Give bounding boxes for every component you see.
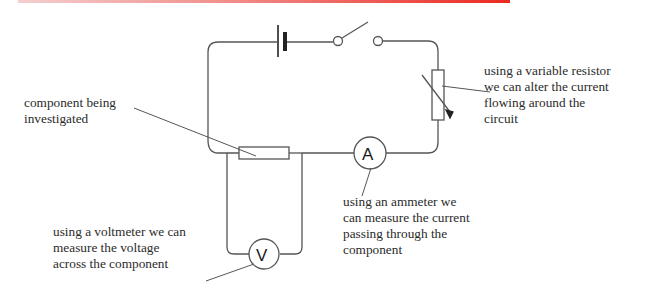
variable-resistor-body [432, 70, 444, 120]
wire-resistor-left [208, 140, 239, 153]
switch-lever [342, 22, 368, 38]
ammeter-symbol: A [362, 145, 374, 164]
variable-resistor-arrow [422, 75, 450, 112]
label-component: component being investigated [24, 95, 116, 127]
wire-right-lower [386, 120, 438, 153]
label-voltmeter: using a voltmeter we can measure the vol… [53, 224, 186, 272]
wire-top-left [208, 42, 277, 140]
label-variable-resistor: using a variable resistor we can alter t… [484, 63, 611, 127]
variable-resistor-arrowhead [446, 110, 453, 118]
wire-voltmeter-left [227, 153, 249, 254]
wire-voltmeter-right [280, 153, 302, 254]
label-ammeter: using an ammeter we can measure the curr… [343, 194, 470, 258]
pointer-ammeter [362, 168, 371, 196]
wire-top-right [383, 41, 438, 70]
switch-contact-left [334, 37, 343, 46]
component-resistor-body [239, 147, 289, 159]
switch-contact-right [374, 37, 383, 46]
voltmeter-symbol: V [256, 246, 268, 265]
pointer-voltmeter [206, 264, 254, 281]
pointer-variable-resistor [442, 86, 490, 92]
pointer-component [134, 108, 256, 156]
